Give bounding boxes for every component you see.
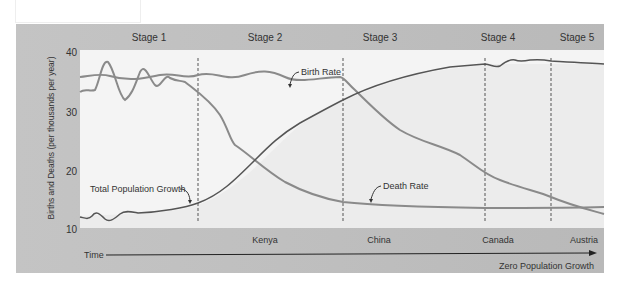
time-label: Time <box>84 250 104 260</box>
zero-population-growth-label: Zero Population Growth <box>499 261 594 271</box>
tpg-annotation: Total Population Growth <box>90 184 186 194</box>
y-axis-label: Births and Deaths (per thousands per yea… <box>46 56 56 219</box>
birth-rate-annotation: Birth Rate <box>301 67 341 77</box>
time-axis-line <box>106 253 590 255</box>
stage-2-label: Stage 2 <box>248 32 283 43</box>
stage-3-label: Stage 3 <box>363 32 398 43</box>
death-rate-annotation: Death Rate <box>383 181 429 191</box>
country-kenya: Kenya <box>252 235 278 245</box>
stage-1-label: Stage 1 <box>132 32 167 43</box>
y-tick-30: 30 <box>66 107 78 118</box>
y-tick-20: 20 <box>66 166 78 177</box>
y-tick-40: 40 <box>66 47 78 58</box>
country-canada: Canada <box>482 235 514 245</box>
country-china: China <box>367 235 391 245</box>
stage-5-label: Stage 5 <box>560 32 595 43</box>
y-tick-10: 10 <box>66 224 78 235</box>
stage-4-label: Stage 4 <box>481 32 516 43</box>
time-arrowhead-icon <box>589 250 597 256</box>
demographic-transition-chart: Stage 1 Stage 2 Stage 3 Stage 4 Stage 5 … <box>0 0 617 287</box>
country-austria: Austria <box>570 235 598 245</box>
